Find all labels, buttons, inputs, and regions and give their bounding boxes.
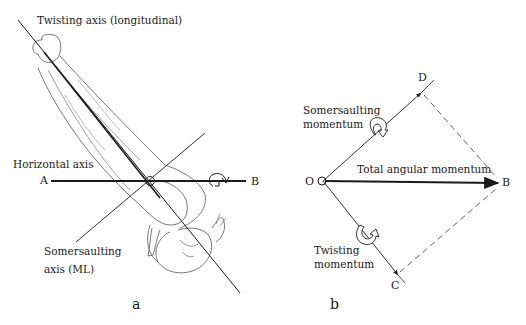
point-b-label-a: B	[251, 176, 259, 188]
origin-o-marker	[318, 177, 326, 185]
label-somersaulting-momentum-1: Somersaulting	[303, 104, 381, 116]
point-c-label: C	[391, 280, 399, 292]
dashed-line-c-b	[400, 188, 497, 272]
rotation-arrow-icon	[209, 173, 229, 186]
label-somersaulting-axis-1: Somersaulting	[44, 245, 122, 257]
total-angular-momentum-vector	[325, 181, 498, 183]
label-twisting-momentum-2: momentum	[314, 258, 374, 270]
label-somersaulting-momentum-2: momentum	[303, 118, 363, 130]
twisting-rotation-icon	[357, 225, 379, 245]
label-total-angular-momentum: Total angular momentum	[357, 163, 491, 175]
point-o-label: O	[305, 176, 314, 188]
label-twisting-momentum-1: Twisting	[314, 244, 359, 256]
point-a-label: A	[40, 175, 48, 187]
somersault-rotation-icon	[370, 118, 388, 137]
label-somersaulting-axis-2: axis (ML)	[44, 263, 94, 275]
label-twisting-axis: Twisting axis (longitudinal)	[37, 14, 182, 26]
caption-b: b	[330, 296, 339, 312]
point-b-label-b: B	[502, 177, 510, 189]
label-horizontal-axis: Horizontal axis	[13, 158, 94, 170]
point-d-label: D	[418, 72, 427, 84]
caption-a: a	[132, 296, 140, 312]
panel-a-diverfigure	[33, 34, 226, 272]
